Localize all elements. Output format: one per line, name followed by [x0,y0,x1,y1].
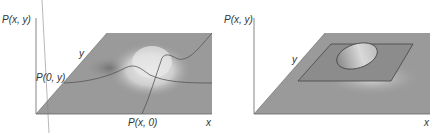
right-x-axis-label: x [423,117,430,128]
left-probability-bump-peak [132,46,172,78]
right-z-axis-label: P(x, y) [224,14,253,25]
right-y-axis-label: y [291,54,298,65]
left-x-axis-label: x [205,117,212,128]
left-z-axis-label: P(x, y) [2,14,31,25]
joint-distribution-diagram: P(x, y) y P(0, y) P(x, 0) x P(x, y) y x [0,0,437,133]
marginal-y-label: P(0, y) [36,72,65,83]
marginal-x-label: P(x, 0) [128,117,157,128]
left-y-axis-label: y [78,48,85,59]
left-panel: P(x, y) y P(0, y) P(x, 0) x [2,0,212,133]
right-panel: P(x, y) y x [224,14,430,128]
